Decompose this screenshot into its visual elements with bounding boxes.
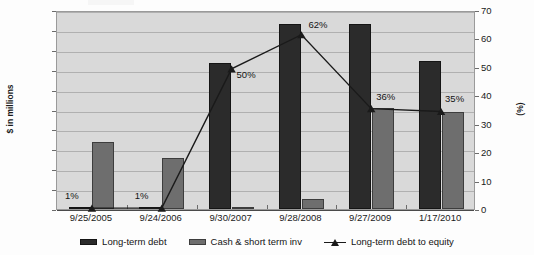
x-axis-tick-label: 9/24/2006 — [126, 213, 196, 223]
y-axis-left-tick-mark — [52, 11, 56, 12]
y-axis-left-tick-mark — [52, 210, 56, 211]
legend-item-long-term-debt[interactable]: Long-term debt — [80, 237, 166, 247]
plot-inner — [57, 12, 474, 209]
y-axis-right-tick-label: 30 — [481, 120, 529, 130]
y-axis-right-tick-label: 70 — [481, 6, 529, 16]
data-label-debt-to-equity: 35% — [445, 94, 464, 104]
legend-swatch-bar-gray-icon — [189, 239, 206, 245]
legend-item-cash-short-term-inv[interactable]: Cash & short term inv — [189, 237, 302, 247]
y-axis-right-tick-mark — [475, 182, 479, 183]
y-axis-left-title: $ in millions — [5, 73, 15, 145]
y-axis-right-tick-mark — [475, 125, 479, 126]
chart-legend: Long-term debt Cash & short term inv Lon… — [0, 233, 534, 251]
y-axis-right-tick-mark — [475, 11, 479, 12]
y-axis-right-tick-label: 60 — [481, 34, 529, 44]
y-axis-left-tick-mark — [52, 150, 56, 151]
y-axis-left-tick-mark — [52, 91, 56, 92]
data-label-debt-to-equity: 1% — [65, 191, 79, 201]
line-marker-triangle-icon[interactable] — [297, 31, 305, 38]
data-label-debt-to-equity: 62% — [308, 20, 327, 30]
chart-container: $ in millions (%) Long-term debt Cash & … — [0, 0, 534, 255]
y-axis-left-tick-mark — [52, 31, 56, 32]
y-axis-right-tick-mark — [475, 68, 479, 69]
y-axis-right-tick-label: 50 — [481, 63, 529, 73]
x-axis-tick-label: 1/17/2010 — [405, 213, 475, 223]
y-axis-right-tick-mark — [475, 39, 479, 40]
line-path — [92, 35, 441, 208]
y-axis-right-tick-mark — [475, 210, 479, 211]
y-axis-right-tick-label: 40 — [481, 91, 529, 101]
y-axis-left-tick-mark — [52, 130, 56, 131]
y-axis-left-tick-mark — [52, 190, 56, 191]
x-axis-tick-label: 9/28/2008 — [266, 213, 336, 223]
line-marker-triangle-icon[interactable] — [227, 65, 235, 72]
data-label-debt-to-equity: 50% — [237, 70, 256, 80]
y-axis-right-tick-label: 20 — [481, 148, 529, 158]
y-axis-right-tick-label: 0 — [481, 205, 529, 215]
y-axis-right-tick-mark — [475, 96, 479, 97]
data-label-debt-to-equity: 1% — [135, 191, 149, 201]
x-axis-tick-label: 9/30/2007 — [196, 213, 266, 223]
cropped-title-artifact — [88, 0, 134, 5]
y-axis-left-tick-mark — [52, 51, 56, 52]
legend-label-cash-short-term-inv: Cash & short term inv — [211, 237, 302, 247]
legend-swatch-bar-dark-icon — [80, 239, 97, 245]
y-axis-right-tick-label: 10 — [481, 177, 529, 187]
legend-swatch-line-triangle-icon — [324, 238, 346, 247]
y-axis-right-tick-mark — [475, 153, 479, 154]
legend-label-long-term-debt-to-equity: Long-term debt to equity — [351, 237, 454, 247]
plot-area — [56, 11, 475, 210]
x-axis-tick-label: 9/25/2005 — [56, 213, 126, 223]
line-series-long-term-debt-to-equity — [57, 12, 476, 211]
data-label-debt-to-equity: 36% — [376, 92, 395, 102]
y-axis-left-tick-mark — [52, 71, 56, 72]
y-axis-left-tick-mark — [52, 170, 56, 171]
legend-label-long-term-debt: Long-term debt — [102, 237, 166, 247]
y-axis-left-tick-mark — [52, 111, 56, 112]
legend-item-long-term-debt-to-equity[interactable]: Long-term debt to equity — [324, 237, 454, 247]
x-axis-tick-label: 9/27/2009 — [335, 213, 405, 223]
